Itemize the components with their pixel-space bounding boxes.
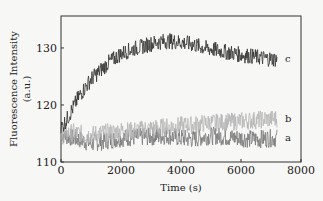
- x-axis-title: Time (s): [160, 182, 201, 193]
- line-chart: 02000400060008000110120130 abc Time (s) …: [0, 0, 323, 201]
- x-tick-label: 0: [58, 164, 65, 177]
- y-tick-label: 130: [36, 42, 57, 55]
- x-tick-label: 2000: [107, 164, 135, 177]
- x-tick-label: 8000: [287, 164, 315, 177]
- series-label-b: b: [285, 113, 291, 124]
- x-tick-label: 4000: [167, 164, 195, 177]
- series-label-a: a: [285, 132, 291, 143]
- series-label-c: c: [285, 53, 291, 64]
- y-axis-title: Fluorescence Intensity: [8, 31, 19, 147]
- y-tick-label: 120: [36, 99, 57, 112]
- y-tick-label: 110: [36, 156, 57, 169]
- y-axis-unit: (a.u.): [21, 76, 32, 103]
- series-layer: [61, 33, 277, 150]
- series-labels: abc: [285, 53, 291, 143]
- series-line-c: [61, 33, 277, 133]
- x-tick-label: 6000: [227, 164, 255, 177]
